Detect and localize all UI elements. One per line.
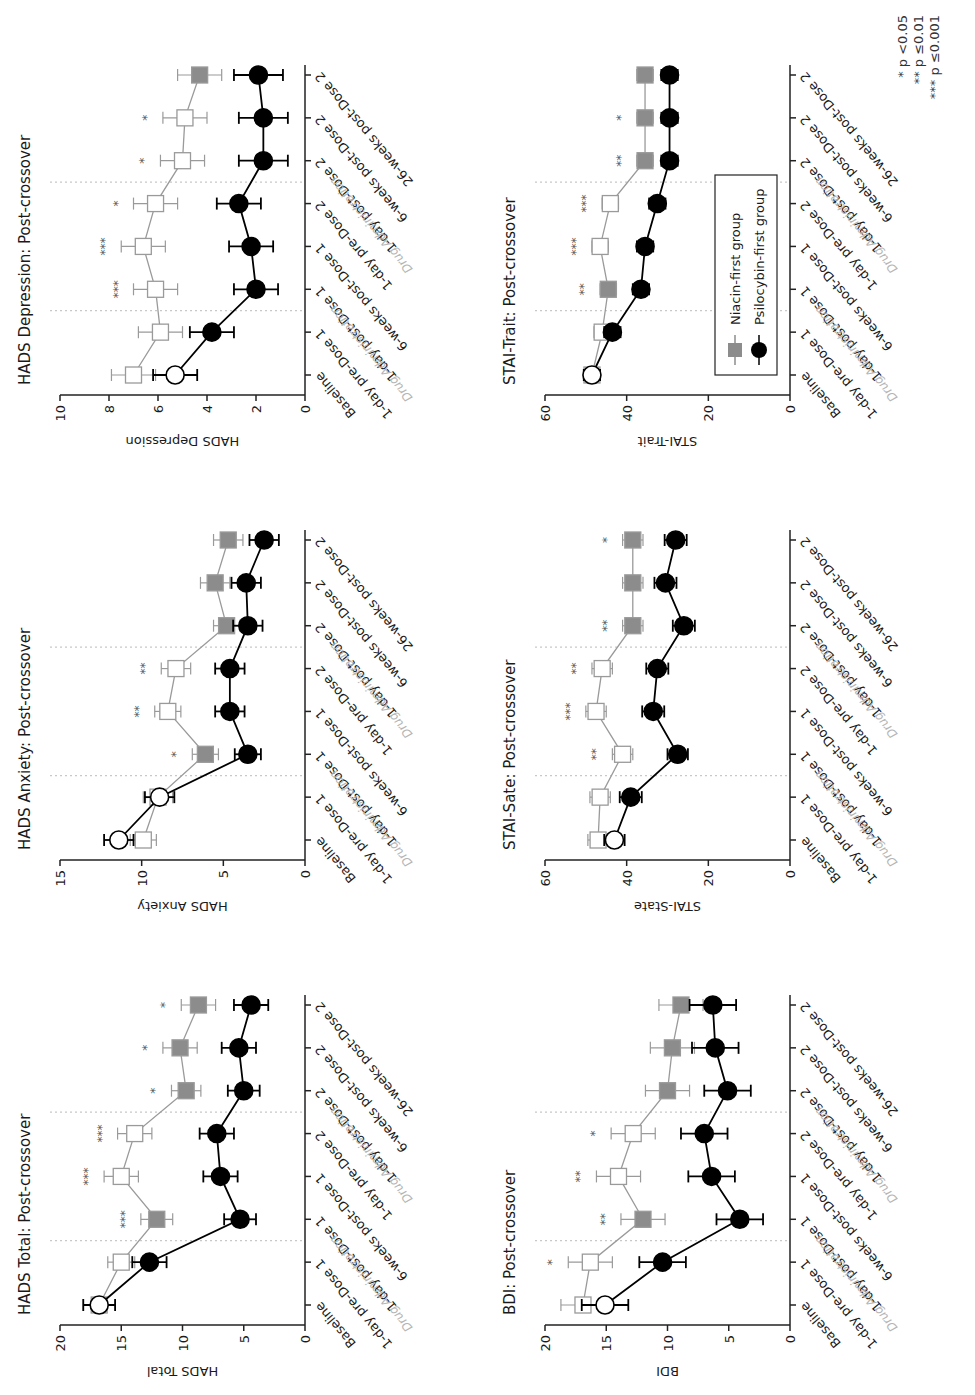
panel-title: BDI: Post-crossover bbox=[501, 1169, 519, 1315]
psilocybin-data-point bbox=[235, 745, 261, 763]
significance-stars: ** bbox=[598, 1213, 612, 1225]
niacin-data-point bbox=[181, 997, 215, 1013]
psilocybin-data-point bbox=[648, 195, 666, 213]
y-tick-label: 15 bbox=[114, 1335, 129, 1352]
psilocybin-data-point bbox=[239, 152, 288, 170]
chart-hads-total: HADS Total: Post-crossover05101520HADS T… bbox=[0, 930, 470, 1395]
y-tick-label: 20 bbox=[701, 405, 716, 422]
psilocybin-data-point bbox=[215, 660, 244, 678]
legend-label: Niacin-first group bbox=[728, 213, 743, 325]
psilocybin-data-point bbox=[632, 280, 650, 298]
panel-stai-state: STAI-Sate: Post-crossover0204060STAI-Sta… bbox=[485, 465, 955, 930]
niacin-data-point bbox=[121, 238, 165, 254]
psilocybin-data-point bbox=[661, 66, 679, 84]
niacin-data-point bbox=[645, 1083, 689, 1099]
y-tick-label: 40 bbox=[620, 870, 635, 887]
niacin-data-point bbox=[611, 1126, 655, 1142]
significance-stars: ** bbox=[573, 1170, 587, 1182]
psilocybin-data-point bbox=[217, 195, 261, 213]
significance-stars: * bbox=[158, 1002, 172, 1008]
y-tick-label: 10 bbox=[661, 1335, 676, 1352]
significance-stars: * bbox=[614, 115, 628, 121]
niacin-data-point bbox=[214, 532, 243, 548]
y-tick-label: 0 bbox=[783, 405, 798, 413]
panel-hads-total: HADS Total: Post-crossover05101520HADS T… bbox=[0, 930, 470, 1395]
significance-stars: ** bbox=[600, 620, 614, 632]
y-tick-label: 5 bbox=[722, 1335, 737, 1343]
y-tick-label: 10 bbox=[135, 870, 150, 887]
niacin-data-point bbox=[586, 703, 606, 719]
significance-stars: * bbox=[600, 537, 614, 543]
psilocybin-data-point bbox=[639, 1253, 686, 1271]
psilocybin-data-point bbox=[688, 1167, 735, 1185]
significance-stars: * bbox=[148, 1088, 162, 1094]
niacin-data-point bbox=[637, 67, 653, 83]
y-tick-label: 60 bbox=[538, 405, 553, 422]
niacin-data-point bbox=[171, 1083, 200, 1099]
niacin-data-point bbox=[590, 789, 610, 805]
niacin-data-point bbox=[623, 618, 643, 634]
significance-stars: *** bbox=[118, 1210, 132, 1228]
y-tick-label: 10 bbox=[176, 1335, 191, 1352]
psilocybin-data-point bbox=[145, 788, 174, 806]
y-tick-label: 40 bbox=[620, 405, 635, 422]
panel-title: HADS Depression: Post-crossover bbox=[16, 134, 34, 385]
y-axis-label: HADS Total bbox=[147, 1364, 218, 1379]
niacin-data-point bbox=[612, 746, 632, 762]
y-axis-label: BDI bbox=[656, 1364, 679, 1379]
psilocybin-data-point bbox=[603, 323, 621, 341]
psilocybin-data-point bbox=[228, 1082, 260, 1100]
niacin-data-point bbox=[138, 324, 182, 340]
y-tick-label: 6 bbox=[151, 405, 166, 413]
significance-stars: * bbox=[111, 201, 125, 207]
panel-bdi: BDI: Post-crossover05101520BDIBaseline1-… bbox=[485, 930, 955, 1395]
significance-key: * p <0.05 ** p ≤0.01 *** p ≤0.001 bbox=[895, 15, 943, 165]
significance-stars: ** bbox=[577, 283, 591, 295]
sig-key-2: ** p ≤0.01 bbox=[911, 15, 927, 165]
niacin-data-point bbox=[650, 1040, 694, 1056]
psilocybin-data-point bbox=[229, 237, 273, 255]
psilocybin-data-point bbox=[665, 531, 687, 549]
niacin-data-point bbox=[163, 1040, 197, 1056]
figure-stage: HADS Total: Post-crossover05101520HADS T… bbox=[0, 0, 975, 1395]
sig-key-1: * p <0.05 bbox=[895, 15, 911, 165]
psilocybin-data-point bbox=[234, 66, 283, 84]
psilocybin-data-point bbox=[717, 1210, 764, 1228]
niacin-data-point bbox=[178, 67, 222, 83]
y-tick-label: 0 bbox=[783, 1335, 798, 1343]
panel-title: HADS Anxiety: Post-crossover bbox=[16, 627, 34, 850]
legend: Niacin-first groupPsilocybin-first group bbox=[715, 175, 777, 375]
niacin-data-point bbox=[637, 110, 653, 126]
significance-stars: * bbox=[140, 115, 154, 121]
niacin-data-point bbox=[134, 196, 178, 212]
significance-stars: ** bbox=[138, 663, 152, 675]
psilocybin-data-point bbox=[83, 1296, 115, 1314]
chart-stai-trait: STAI-Trait: Post-crossover0204060STAI-Tr… bbox=[485, 0, 955, 465]
y-tick-label: 60 bbox=[538, 870, 553, 887]
niacin-data-point bbox=[592, 661, 612, 677]
y-tick-label: 15 bbox=[53, 870, 68, 887]
niacin-data-point bbox=[600, 281, 616, 297]
psilocybin-data-point bbox=[690, 996, 737, 1014]
panel-title: STAI-Trait: Post-crossover bbox=[501, 197, 519, 385]
niacin-data-point bbox=[155, 703, 181, 719]
niacin-data-point bbox=[192, 746, 218, 762]
significance-stars: *** bbox=[569, 237, 583, 255]
sig-key-3: *** p ≤0.001 bbox=[927, 15, 943, 165]
legend-label: Psilocybin-first group bbox=[752, 189, 767, 326]
significance-stars: *** bbox=[98, 237, 112, 255]
psilocybin-data-point bbox=[234, 996, 268, 1014]
psilocybin-data-point bbox=[661, 109, 679, 127]
significance-stars: * bbox=[588, 1131, 602, 1137]
panel-title: STAI-Sate: Post-crossover bbox=[501, 659, 519, 850]
niacin-data-point bbox=[163, 110, 207, 126]
psilocybin-data-point bbox=[583, 366, 601, 384]
y-tick-label: 4 bbox=[200, 405, 215, 413]
niacin-data-point bbox=[161, 661, 190, 677]
y-tick-label: 20 bbox=[701, 870, 716, 887]
niacin-data-point bbox=[118, 1126, 152, 1142]
psilocybin-data-point bbox=[646, 660, 668, 678]
niacin-data-point bbox=[623, 532, 643, 548]
niacin-data-point bbox=[200, 575, 229, 591]
y-tick-label: 5 bbox=[216, 870, 231, 878]
